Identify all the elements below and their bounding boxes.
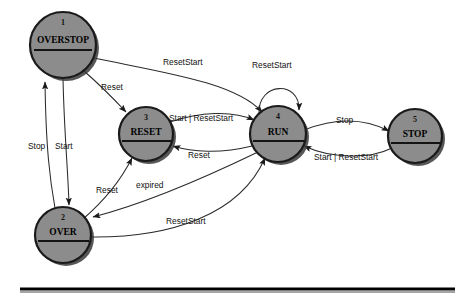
state-number: 2	[61, 213, 65, 222]
state-node-reset[interactable]: 3 RESET	[119, 107, 176, 164]
edge-label-over-run: ResetStart	[166, 216, 206, 226]
state-label: OVER	[49, 227, 77, 237]
edge-label-run-over: expired	[136, 180, 164, 190]
edge-label-over-reset: Reset	[96, 185, 119, 195]
edge-label-run-self: ResetStart	[252, 60, 292, 70]
footer-rule	[20, 289, 455, 292]
edge-label-overstop-run: ResetStart	[163, 57, 203, 67]
state-number: 1	[61, 18, 65, 27]
state-machine-diagram: 1 OVERSTOP 2 OVER 3 RESET	[0, 0, 470, 298]
state-label: STOP	[403, 129, 428, 139]
edge-label-run-reset: Reset	[188, 150, 211, 160]
diagram-canvas: 1 OVERSTOP 2 OVER 3 RESET	[0, 0, 470, 298]
edge-label-stop-run: Start | ResetStart	[314, 152, 379, 162]
state-node-stop[interactable]: 5 STOP	[388, 109, 445, 166]
edge-label-run-stop: Stop	[336, 115, 354, 125]
transitions-layer	[45, 58, 392, 237]
edge-label-overstop-over: Start	[55, 141, 73, 151]
states-layer: 1 OVERSTOP 2 OVER 3 RESET	[30, 12, 445, 266]
state-node-over[interactable]: 2 OVER	[35, 207, 94, 266]
state-label: OVERSTOP	[37, 35, 89, 45]
edge-label-reset-run: Start | ResetStart	[169, 113, 234, 123]
state-label: RUN	[268, 127, 289, 137]
state-number: 5	[413, 115, 417, 124]
state-node-run[interactable]: 4 RUN	[250, 106, 309, 165]
edge-label-overstop-reset: Reset	[101, 82, 124, 92]
edge-over-to-overstop	[45, 82, 55, 208]
state-label: RESET	[130, 127, 162, 137]
state-node-overstop[interactable]: 1 OVERSTOP	[30, 12, 99, 81]
edge-label-over-overstop: Stop	[28, 141, 46, 151]
edge-run-to-reset	[173, 146, 252, 151]
state-number: 3	[144, 113, 148, 122]
transition-labels-layer: ResetStart Reset Stop Start Start | Rese…	[28, 57, 379, 226]
state-number: 4	[276, 112, 280, 121]
